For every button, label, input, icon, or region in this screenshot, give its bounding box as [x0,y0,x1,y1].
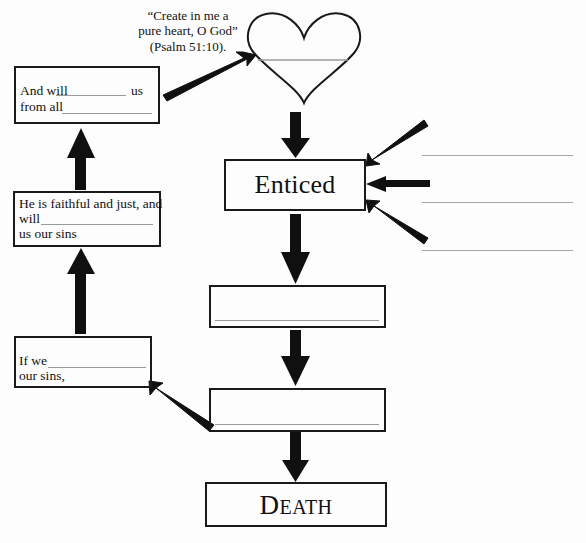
arrow-enticed-to-box2 [281,214,310,284]
arrow-right-lower-to-enticed [366,200,428,244]
arrow-box3-to-death [282,432,309,482]
arrow-confess-to-faithful [67,248,95,334]
center-box-blank-2-line[interactable] [215,424,379,425]
left-box-2-blank-1[interactable] [41,224,153,225]
center-box-blank-1-line[interactable] [215,320,379,321]
center-box-enticed[interactable]: Enticed [224,159,366,211]
arrow-heart-to-enticed [281,112,310,158]
center-box-death-label: DEATH [207,490,385,521]
arrow-box3-to-confess [149,381,214,431]
left-box-2-line-3: us our sins [19,226,77,241]
heart-shape [248,13,360,103]
left-box-2-line-1: He is faithful and just, and [19,196,162,211]
scripture-quote-line-3: (Psalm 51:10). [118,39,258,54]
left-box-3-line-2: our sins, [19,368,65,383]
center-box-blank-1[interactable] [209,285,386,328]
arrow-right-middle-to-enticed [366,176,430,192]
scripture-quote-line-2: pure heart, O God” [118,23,258,38]
right-blank-line-3[interactable] [422,250,573,251]
right-blank-line-2[interactable] [422,202,573,203]
left-box-1-line-2-pre: from all [20,99,63,114]
left-box-1-line-1-post: us [131,83,143,98]
worksheet-diagram: “Create in me a pure heart, O God” (Psal… [0,0,586,543]
left-box-3-line-1-pre: If we [19,353,47,368]
arrow-right-upper-to-enticed [366,120,428,166]
left-box-1-blank-2[interactable] [62,113,152,114]
center-box-blank-2[interactable] [209,388,386,432]
scripture-quote-line-1: “Create in me a [118,8,258,23]
death-label-initial: D [259,490,279,520]
right-blank-line-1[interactable] [422,155,573,156]
death-label-rest: EATH [279,496,332,518]
arrow-box2-to-box3 [281,330,310,386]
left-box-2-line-2-pre: will [19,211,40,226]
arrow-box1-to-heart [163,52,256,101]
left-box-1-blank-1[interactable] [56,95,126,96]
center-box-death[interactable]: DEATH [205,482,387,527]
center-box-enticed-label: Enticed [226,170,364,200]
scripture-quote: “Create in me a pure heart, O God” (Psal… [118,8,258,54]
arrow-faithful-to-forgive [67,128,95,190]
